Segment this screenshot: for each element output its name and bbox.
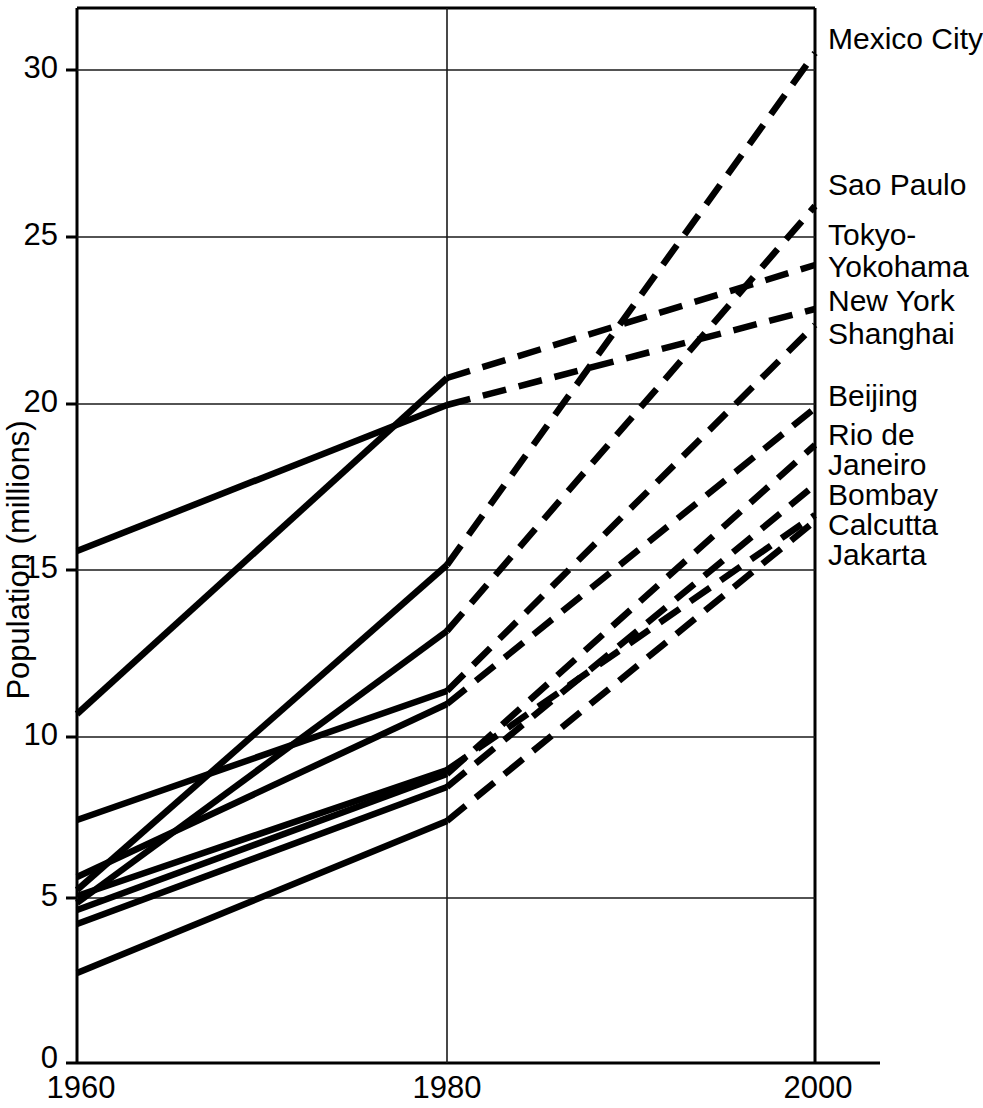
y-axis-title: Population (millions) [1,420,36,699]
series-label-sao-paulo: Sao Paulo [828,168,966,201]
plot-frame [77,8,880,1063]
series-label-beijing: Beijing [828,379,918,412]
xtick-label-1980: 1980 [413,1070,482,1105]
series-label-mexico-city: Mexico City [828,22,983,55]
xtick-label-1960: 1960 [47,1070,116,1105]
series-label-calcutta: Calcutta [828,508,938,541]
series-new-york [77,309,815,551]
series-label-new-york: New York [828,284,955,317]
y-tick-marks [66,70,77,1063]
series-rio-de-janeiro-projected [447,445,815,774]
series-label-tokyo-line2: Yokohama [828,250,969,283]
series-label-tokyo-line1: Tokyo- [828,218,916,251]
ytick-label-30: 30 [24,50,58,85]
series-bombay-historical [77,787,447,924]
series-label-jakarta: Jakarta [828,538,926,571]
ytick-label-10: 10 [24,717,58,752]
xtick-label-2000: 2000 [784,1070,853,1105]
series-shanghai-historical [77,691,447,820]
series-sao-paulo [77,206,815,903]
series-tokyo-yokohama-projected [447,265,815,378]
series-beijing [77,408,815,877]
ytick-label-5: 5 [41,878,58,913]
ytick-label-20: 20 [24,384,58,419]
series-sao-paulo-historical [77,631,447,903]
series-rio-de-janeiro [77,445,815,910]
series-sao-paulo-projected [447,206,815,631]
series-label-shanghai: Shanghai [828,317,955,350]
series-mexico-city-projected [447,53,815,565]
series-mexico-city [77,53,815,890]
series-new-york-historical [77,405,447,551]
series-label-rio-line2: Janeiro [828,448,926,481]
ytick-label-25: 25 [24,217,58,252]
series-label-rio-line1: Rio de [828,418,915,451]
series-tokyo-yokohama [77,265,815,714]
series-label-bombay: Bombay [828,478,938,511]
